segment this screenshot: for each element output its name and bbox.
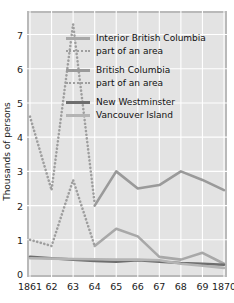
y-axis-tick-label: 2 (17, 201, 23, 210)
legend-swatch-dotted (66, 46, 90, 57)
legend-label: part of an area (96, 78, 163, 89)
legend-label: part of an area (96, 46, 163, 57)
legend-swatch-solid (66, 65, 90, 76)
x-axis-tick-label: 69 (196, 282, 208, 292)
y-axis-tick-label: 7 (17, 30, 23, 39)
chart-figure: Thousands of persons 01234567 1861626364… (0, 0, 234, 303)
y-axis-tick-label: 1 (17, 235, 23, 244)
legend-swatch-dotted (66, 78, 90, 89)
legend-item: part of an area (66, 45, 206, 58)
legend-label: New Westminster (96, 97, 175, 108)
x-axis-tick-label: 65 (110, 282, 122, 292)
y-axis-tick-label: 3 (17, 167, 23, 176)
legend-item: Interior British Columbia (66, 32, 206, 45)
legend-swatch-solid (66, 33, 90, 44)
chart-legend: Interior British Columbiapart of an area… (66, 32, 206, 122)
x-axis-tick-label: 63 (67, 282, 79, 292)
x-axis-tick-label: 1861 (18, 282, 42, 292)
legend-label: British Columbia (96, 65, 170, 76)
legend-item: New Westminster (66, 96, 206, 109)
x-axis-tick-label: 66 (132, 282, 144, 292)
y-axis-tick-label: 4 (17, 133, 23, 142)
y-axis-tick-label: 6 (17, 64, 23, 73)
y-axis-tick-label: 5 (17, 98, 23, 107)
legend-item: part of an area (66, 77, 206, 90)
x-axis-tick-label: 62 (46, 282, 58, 292)
legend-item: British Columbia (66, 64, 206, 77)
series-line (30, 180, 95, 246)
y-axis-tick-label: 0 (17, 270, 23, 279)
legend-label: Vancouver Island (96, 110, 173, 121)
legend-label: Interior British Columbia (96, 33, 206, 44)
x-axis-tick-label: 67 (153, 282, 165, 292)
legend-swatch-solid (66, 110, 90, 121)
x-axis-tick-label: 1870 (212, 282, 234, 292)
legend-swatch-solid (66, 97, 90, 108)
x-axis-tick-label: 64 (89, 282, 101, 292)
legend-item: Vancouver Island (66, 109, 206, 122)
y-axis-title: Thousands of persons (0, 0, 14, 303)
x-axis-tick-label: 68 (175, 282, 187, 292)
